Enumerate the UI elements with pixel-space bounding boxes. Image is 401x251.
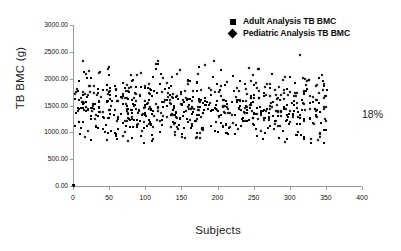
data-point-adult [107, 132, 109, 134]
data-point-pediatric [81, 100, 84, 103]
data-point-pediatric [198, 100, 201, 103]
data-point-pediatric [218, 91, 221, 94]
data-point-pediatric [238, 100, 241, 103]
data-point-adult [292, 114, 294, 116]
x-axis-tick-label: 150 [163, 194, 199, 202]
data-point-pediatric [256, 87, 259, 90]
data-point-adult [287, 116, 289, 118]
data-point-pediatric [302, 102, 305, 105]
data-point-adult [131, 112, 133, 114]
data-point-adult [286, 88, 288, 90]
data-point-pediatric [131, 80, 134, 83]
data-point-adult [111, 100, 113, 102]
y-axis-tick-label: 3000.00 [22, 21, 68, 28]
data-point-pediatric [117, 100, 120, 103]
data-point-pediatric [221, 105, 224, 108]
data-point-pediatric [87, 107, 90, 110]
y-axis-tick-label: 1000.00 [22, 128, 68, 135]
data-point-adult [144, 114, 146, 116]
data-point-adult [136, 126, 138, 128]
data-point-pediatric [286, 93, 289, 96]
data-point-pediatric [324, 94, 327, 97]
data-point-pediatric [279, 109, 282, 112]
data-point-adult [181, 133, 183, 135]
data-point-adult [215, 104, 217, 106]
data-point-adult [303, 93, 305, 95]
data-point-adult [190, 127, 192, 129]
data-point-adult [293, 110, 295, 112]
data-point-adult [306, 88, 308, 90]
data-point-adult [303, 120, 305, 122]
data-point-adult [156, 92, 158, 94]
data-point-adult [110, 130, 112, 132]
data-point-pediatric [176, 126, 179, 129]
data-point-pediatric [213, 59, 216, 62]
data-point-adult [220, 122, 222, 124]
data-point-adult [86, 96, 88, 98]
data-point-pediatric [122, 92, 125, 95]
x-axis-tick [362, 187, 363, 190]
data-point-adult [303, 118, 305, 120]
data-point-pediatric [319, 132, 322, 135]
data-point-pediatric [164, 98, 167, 101]
data-point-adult [132, 126, 134, 128]
data-point-adult [228, 127, 230, 129]
data-point-pediatric [280, 115, 283, 118]
data-point-pediatric [274, 93, 277, 96]
data-point-pediatric [315, 84, 318, 87]
data-point-pediatric [105, 139, 108, 142]
data-point-pediatric [88, 84, 91, 87]
data-point-pediatric [214, 120, 217, 123]
data-point-adult [161, 119, 163, 121]
data-point-adult [187, 121, 189, 123]
x-axis-tick-label: 50 [91, 194, 127, 202]
data-point-adult [248, 119, 250, 121]
data-point-adult [148, 119, 150, 121]
data-point-pediatric [257, 118, 260, 121]
data-point-adult [168, 87, 170, 89]
data-point-adult [237, 99, 239, 101]
data-point-pediatric [93, 91, 96, 94]
data-point-adult [234, 114, 236, 116]
data-point-pediatric [153, 115, 156, 118]
data-point-adult [212, 76, 214, 78]
data-point-adult [212, 109, 214, 111]
data-point-pediatric [192, 90, 195, 93]
data-point-pediatric [323, 96, 326, 99]
data-point-pediatric [115, 120, 118, 123]
data-point-adult [312, 122, 314, 124]
data-point-adult [191, 113, 193, 115]
data-point-adult [300, 134, 302, 136]
data-point-pediatric [142, 112, 145, 115]
data-point-adult [98, 107, 100, 109]
data-point-adult [151, 140, 153, 142]
data-point-pediatric [88, 90, 91, 93]
data-point-adult [269, 87, 271, 89]
data-point-adult [217, 110, 219, 112]
data-point-adult [225, 100, 227, 102]
data-point-adult [283, 106, 285, 108]
data-point-pediatric [264, 86, 267, 89]
data-point-adult [126, 105, 128, 107]
data-point-pediatric [250, 80, 253, 83]
data-point-adult [114, 132, 116, 134]
data-point-pediatric [156, 110, 159, 113]
data-point-pediatric [314, 98, 317, 101]
data-point-adult [172, 109, 174, 111]
data-point-pediatric [96, 94, 99, 97]
data-point-pediatric [216, 109, 219, 112]
data-point-adult [120, 96, 122, 98]
data-point-adult [115, 135, 117, 137]
data-point-adult [95, 126, 97, 128]
data-point-adult [162, 106, 164, 108]
data-point-pediatric [198, 136, 201, 139]
data-point-pediatric [152, 126, 155, 129]
data-point-adult [113, 114, 115, 116]
data-point-pediatric [121, 97, 124, 100]
data-point-adult [255, 113, 257, 115]
data-point-adult [143, 142, 145, 144]
data-point-pediatric [159, 112, 162, 115]
data-point-adult [252, 123, 254, 125]
data-point-pediatric [257, 96, 260, 99]
data-point-pediatric [317, 92, 320, 95]
